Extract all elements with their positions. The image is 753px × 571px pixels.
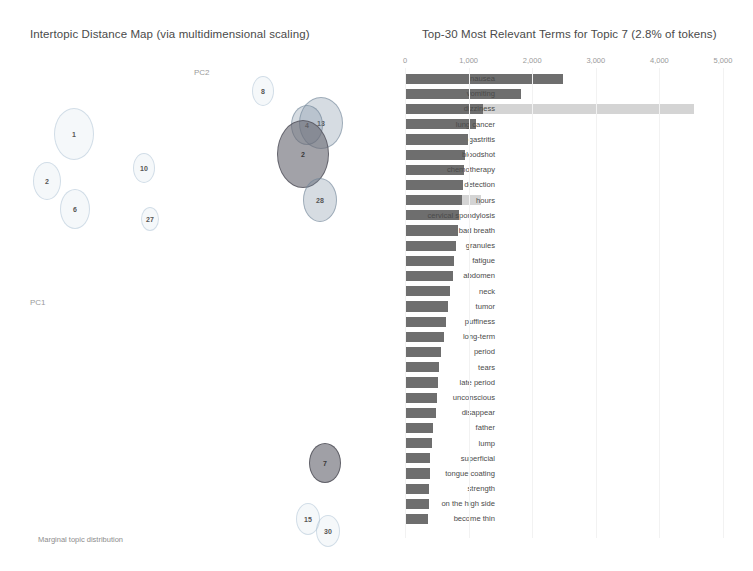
term-row[interactable]: long-term — [400, 330, 753, 345]
topic-frequency-bar — [405, 347, 441, 357]
term-label[interactable]: tongue coating — [445, 469, 495, 478]
topic-bubble-label: 7 — [323, 460, 327, 467]
term-row[interactable]: chemotherapy — [400, 163, 753, 178]
term-label[interactable]: lung cancer — [456, 120, 495, 129]
term-row[interactable]: late period — [400, 376, 753, 391]
gridline-1000 — [469, 68, 470, 538]
term-row[interactable]: tongue coating — [400, 467, 753, 482]
topic-bubble-27[interactable]: 27 — [141, 207, 159, 231]
term-row[interactable]: lump — [400, 437, 753, 452]
term-row[interactable]: vomiting — [400, 87, 753, 102]
term-label[interactable]: tears — [478, 363, 495, 372]
term-label[interactable]: late period — [460, 378, 495, 387]
term-row[interactable]: granules — [400, 239, 753, 254]
term-label[interactable]: superficial — [461, 454, 495, 463]
x-tick-4000: 4,000 — [650, 56, 669, 65]
x-tick-3000: 3,000 — [586, 56, 605, 65]
topic-frequency-bar — [405, 408, 436, 418]
topic-bubble-6[interactable]: 6 — [60, 189, 90, 229]
topic-bubble-label: 8 — [261, 88, 265, 95]
term-row[interactable]: strength — [400, 482, 753, 497]
term-row[interactable]: detection — [400, 178, 753, 193]
term-row[interactable]: superficial — [400, 452, 753, 467]
term-row[interactable]: father — [400, 421, 753, 436]
term-row[interactable]: disappear — [400, 406, 753, 421]
topic-frequency-bar — [405, 301, 448, 311]
topic-frequency-bar — [405, 134, 468, 144]
topic-bubble-28[interactable]: 28 — [303, 178, 337, 222]
topic-bubble-7[interactable]: 7 — [309, 443, 341, 483]
topic-frequency-bar — [405, 150, 465, 160]
topic-frequency-bar — [405, 317, 446, 327]
term-label[interactable]: become thin — [454, 514, 495, 523]
term-label[interactable]: fatigue — [472, 256, 495, 265]
gridline-4000 — [659, 68, 660, 538]
term-label[interactable]: neck — [479, 287, 495, 296]
top-terms-panel[interactable]: Top-30 Most Relevant Terms for Topic 7 (… — [400, 0, 753, 571]
gridline-2000 — [532, 68, 533, 538]
topic-bubble-30[interactable]: 30 — [316, 515, 340, 547]
topic-frequency-bar — [405, 499, 429, 509]
x-tick-1000: 1,000 — [459, 56, 478, 65]
term-row[interactable]: neck — [400, 285, 753, 300]
term-label[interactable]: disappear — [462, 408, 495, 417]
term-label[interactable]: gastritis — [469, 135, 495, 144]
term-label[interactable]: vomiting — [467, 89, 495, 98]
pc2-axis-label: PC2 — [194, 68, 210, 77]
term-label[interactable]: bad breath — [459, 226, 495, 235]
term-label[interactable]: granules — [466, 241, 495, 250]
intertopic-distance-map-panel[interactable]: Intertopic Distance Map (via multidimens… — [0, 0, 400, 571]
gridline-3000 — [596, 68, 597, 538]
topic-frequency-bar — [405, 484, 429, 494]
term-row[interactable]: lung cancer — [400, 118, 753, 133]
term-row[interactable]: gastritis — [400, 133, 753, 148]
term-label[interactable]: nausea — [470, 74, 495, 83]
x-tick-0: 0 — [403, 56, 407, 65]
term-row[interactable]: abdomen — [400, 269, 753, 284]
term-row[interactable]: cervical spondylosis — [400, 209, 753, 224]
term-label[interactable]: hours — [476, 196, 495, 205]
topic-bubble-2[interactable]: 2 — [33, 162, 61, 200]
term-label[interactable]: chemotherapy — [447, 165, 495, 174]
topic-bubble-10[interactable]: 10 — [133, 153, 155, 183]
term-row[interactable]: fatigue — [400, 254, 753, 269]
term-label[interactable]: strength — [468, 484, 495, 493]
topic-frequency-bar — [405, 393, 437, 403]
term-label[interactable]: period — [474, 347, 495, 356]
x-tick-2000: 2,000 — [523, 56, 542, 65]
term-row[interactable]: tumor — [400, 300, 753, 315]
topic-bubble-label: 6 — [73, 206, 77, 213]
topic-frequency-bar — [405, 377, 438, 387]
term-label[interactable]: tumor — [476, 302, 495, 311]
term-row[interactable]: unconscious — [400, 391, 753, 406]
topic-bubble-8[interactable]: 8 — [252, 76, 274, 106]
term-label[interactable]: father — [476, 423, 495, 432]
term-row[interactable]: period — [400, 345, 753, 360]
term-row[interactable]: become thin — [400, 512, 753, 527]
topic-frequency-bar — [405, 241, 456, 251]
topic-bubble-label: 10 — [140, 165, 148, 172]
term-row[interactable]: on the high side — [400, 497, 753, 512]
term-label[interactable]: bloodshot — [462, 150, 495, 159]
topic-bubble-label: 2 — [301, 151, 305, 158]
term-row[interactable]: bad breath — [400, 224, 753, 239]
topic-bubble-label: 27 — [146, 216, 154, 223]
term-label[interactable]: lump — [479, 439, 495, 448]
x-axis-ticks: 01,0002,0003,0004,0005,000 — [400, 56, 753, 68]
term-row[interactable]: hours — [400, 194, 753, 209]
term-row[interactable]: nausea — [400, 72, 753, 87]
term-label[interactable]: cervical spondylosis — [427, 211, 495, 220]
topic-bubble-1[interactable]: 1 — [54, 108, 94, 160]
term-row[interactable]: puffiness — [400, 315, 753, 330]
left-panel-title: Intertopic Distance Map (via multidimens… — [30, 28, 310, 40]
term-row[interactable]: tears — [400, 361, 753, 376]
term-row[interactable]: bloodshot — [400, 148, 753, 163]
term-label[interactable]: unconscious — [453, 393, 495, 402]
topic-frequency-bar — [405, 514, 428, 524]
term-row[interactable]: dizziness — [400, 102, 753, 117]
topic-bubble-label: 30 — [324, 528, 332, 535]
topic-frequency-bar — [405, 271, 453, 281]
marginal-topic-distribution-label: Marginal topic distribution — [38, 535, 123, 544]
topic-bubble-label: 2 — [45, 178, 49, 185]
gridline-5000 — [723, 68, 724, 538]
